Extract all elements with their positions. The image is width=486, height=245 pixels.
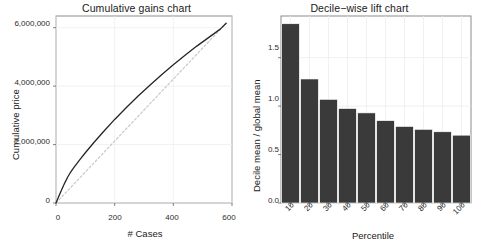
figure-root: Cumulative gains chart Cumulative price … — [0, 0, 486, 245]
bar[interactable] — [282, 24, 300, 203]
decile-wise-lift-chart: Decile−wise lift chart Decile mean / glo… — [243, 0, 486, 245]
bar[interactable] — [415, 129, 433, 203]
bar[interactable] — [377, 121, 395, 203]
bar[interactable] — [396, 126, 414, 203]
cumulative-gains-plot-area — [0, 0, 243, 245]
cumulative-gains-chart: Cumulative gains chart Cumulative price … — [0, 0, 243, 245]
bar[interactable] — [339, 109, 357, 203]
bar[interactable] — [434, 132, 452, 203]
bar[interactable] — [320, 99, 338, 203]
bar[interactable] — [453, 135, 471, 203]
bar[interactable] — [301, 79, 319, 203]
bar[interactable] — [358, 113, 376, 203]
